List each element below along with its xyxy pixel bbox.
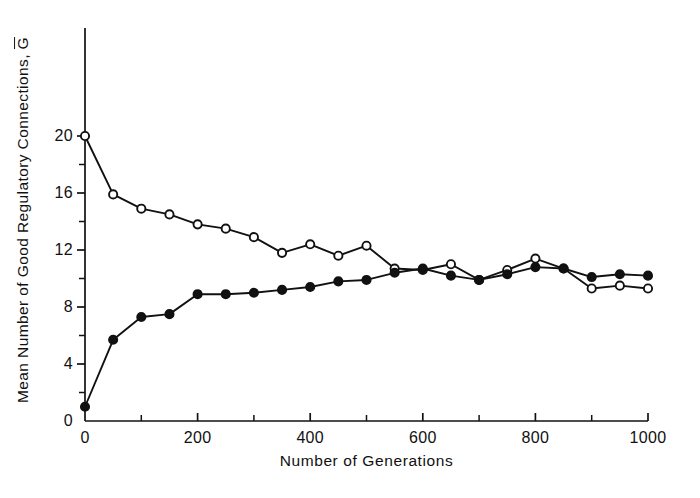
data-point (165, 210, 173, 218)
chart-plot (0, 0, 700, 498)
data-point (419, 264, 427, 272)
data-point (306, 240, 314, 248)
data-point (165, 310, 173, 318)
series-filled-circles (81, 263, 652, 411)
data-point (503, 270, 511, 278)
data-point (559, 264, 567, 272)
y-tick-label: 20 (55, 127, 73, 145)
data-point (250, 289, 258, 297)
y-tick-label: 16 (55, 184, 73, 202)
data-point (334, 252, 342, 260)
data-point (531, 263, 539, 271)
data-point (644, 284, 652, 292)
data-point (222, 225, 230, 233)
data-point (109, 190, 117, 198)
data-point (334, 277, 342, 285)
y-tick-label: 12 (55, 241, 73, 259)
data-point (81, 132, 89, 140)
data-point (616, 270, 624, 278)
data-point (531, 254, 539, 262)
data-point (447, 260, 455, 268)
data-point (278, 286, 286, 294)
x-tick-label: 800 (522, 429, 550, 447)
x-tick-label: 0 (80, 429, 89, 447)
data-point (644, 272, 652, 280)
x-tick-label: 600 (409, 429, 437, 447)
data-point (447, 272, 455, 280)
data-point (306, 283, 314, 291)
data-point (362, 242, 370, 250)
data-point (137, 205, 145, 213)
data-point (588, 273, 596, 281)
data-point (588, 284, 596, 292)
axis-spines (85, 28, 648, 421)
data-point (616, 282, 624, 290)
data-point (475, 276, 483, 284)
y-tick-label: 8 (64, 298, 73, 316)
x-tick-label: 1000 (630, 429, 667, 447)
data-point (391, 269, 399, 277)
data-point (109, 336, 117, 344)
data-point (194, 220, 202, 228)
y-tick-label: 0 (64, 412, 73, 430)
figure-container: Mean Number of Good Regulatory Connectio… (0, 0, 700, 498)
data-point (194, 290, 202, 298)
data-point (362, 276, 370, 284)
data-point (222, 290, 230, 298)
x-tick-label: 400 (296, 429, 324, 447)
data-point (278, 249, 286, 257)
data-point (137, 313, 145, 321)
x-axis-label: Number of Generations (85, 452, 648, 470)
data-point (81, 403, 89, 411)
y-tick-label: 4 (64, 355, 73, 373)
x-tick-label: 200 (184, 429, 212, 447)
data-point (250, 233, 258, 241)
